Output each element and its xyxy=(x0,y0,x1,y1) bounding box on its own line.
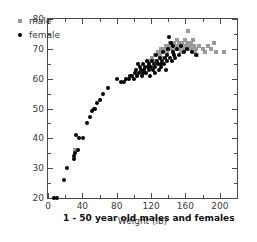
y-tick-minor xyxy=(48,153,51,154)
y-tick-major-right xyxy=(232,198,237,199)
data-point-female xyxy=(166,47,170,51)
x-tick-major xyxy=(82,193,83,198)
x-tick-label: 120 xyxy=(142,201,159,211)
y-tick-major-right xyxy=(232,138,237,139)
data-point-female xyxy=(85,121,89,125)
data-point-male xyxy=(209,47,213,51)
x-tick-major xyxy=(151,193,152,198)
y-tick-major xyxy=(48,138,53,139)
y-tick-minor xyxy=(48,64,51,65)
y-tick-major xyxy=(48,109,53,110)
data-point-female xyxy=(93,107,97,111)
y-tick-minor-right xyxy=(234,123,237,124)
data-point-female xyxy=(164,68,168,72)
x-tick-minor xyxy=(134,195,135,198)
data-point-female xyxy=(55,196,59,200)
y-tick-label: 60 xyxy=(33,74,44,84)
chart-annotation: 1 - 50 year old males and females xyxy=(63,213,235,223)
x-tick-major xyxy=(48,193,49,198)
y-tick-major xyxy=(48,49,53,50)
data-point-female xyxy=(194,53,198,57)
x-tick-label: 0 xyxy=(45,201,51,211)
data-point-male xyxy=(186,29,190,33)
y-tick-minor xyxy=(48,183,51,184)
plot-area: 2030405060708004080120160200 xyxy=(47,18,238,199)
y-tick-minor-right xyxy=(234,64,237,65)
data-point-female xyxy=(76,148,80,152)
data-point-male xyxy=(212,41,216,45)
data-point-male xyxy=(191,38,195,42)
y-tick-minor-right xyxy=(234,34,237,35)
y-tick-major xyxy=(48,79,53,80)
x-tick-major-top xyxy=(151,19,152,24)
y-tick-label: 30 xyxy=(33,163,44,173)
data-point-female xyxy=(88,115,92,119)
x-tick-minor xyxy=(203,195,204,198)
x-tick-label: 200 xyxy=(211,201,228,211)
data-point-female xyxy=(65,166,69,170)
data-point-male xyxy=(222,50,226,54)
x-tick-minor xyxy=(65,195,66,198)
legend-item-male: male xyxy=(18,14,60,28)
y-tick-minor xyxy=(48,123,51,124)
x-tick-label: 160 xyxy=(177,201,194,211)
x-tick-minor-top xyxy=(237,19,238,22)
data-point-male xyxy=(214,50,218,54)
data-point-female xyxy=(185,47,189,51)
data-point-male xyxy=(203,50,207,54)
x-tick-minor xyxy=(168,195,169,198)
x-tick-major-top xyxy=(82,19,83,24)
y-tick-label: 40 xyxy=(33,133,44,143)
legend-label-male: male xyxy=(29,16,51,26)
y-tick-minor-right xyxy=(234,183,237,184)
data-point-female xyxy=(81,136,85,140)
y-tick-label: 70 xyxy=(33,44,44,54)
x-tick-label: 40 xyxy=(77,201,88,211)
y-tick-minor-right xyxy=(234,153,237,154)
x-tick-minor xyxy=(100,195,101,198)
y-tick-major-right xyxy=(232,79,237,80)
x-tick-major xyxy=(220,193,221,198)
x-tick-minor-top xyxy=(134,19,135,22)
data-point-female xyxy=(101,92,105,96)
x-tick-major-top xyxy=(220,19,221,24)
y-tick-label: 50 xyxy=(33,104,44,114)
scatter-chart-figure: 2030405060708004080120160200 Weight (lb)… xyxy=(0,0,257,242)
data-point-female xyxy=(98,98,102,102)
chart-legend: male female xyxy=(18,14,60,42)
y-tick-major-right xyxy=(232,49,237,50)
data-point-female xyxy=(167,35,171,39)
male-marker-icon xyxy=(18,19,22,23)
y-tick-major-right xyxy=(232,109,237,110)
x-tick-minor-top xyxy=(168,19,169,22)
y-tick-minor-right xyxy=(234,94,237,95)
x-tick-label: 80 xyxy=(111,201,122,211)
female-marker-icon xyxy=(18,33,22,37)
y-tick-minor xyxy=(48,94,51,95)
x-tick-minor-top xyxy=(203,19,204,22)
y-tick-major-right xyxy=(232,168,237,169)
data-point-female xyxy=(177,53,181,57)
y-tick-major xyxy=(48,168,53,169)
y-tick-label: 20 xyxy=(33,193,44,203)
x-tick-major-top xyxy=(185,19,186,24)
x-tick-minor-top xyxy=(100,19,101,22)
data-point-female xyxy=(175,47,179,51)
x-tick-major xyxy=(185,193,186,198)
x-tick-minor-top xyxy=(65,19,66,22)
x-tick-major xyxy=(117,193,118,198)
x-tick-major-top xyxy=(117,19,118,24)
legend-label-female: female xyxy=(29,30,60,40)
x-tick-minor xyxy=(237,195,238,198)
data-point-female xyxy=(179,44,183,48)
data-point-female xyxy=(62,178,66,182)
data-point-female xyxy=(106,86,110,90)
legend-item-female: female xyxy=(18,28,60,42)
data-point-female xyxy=(148,74,152,78)
